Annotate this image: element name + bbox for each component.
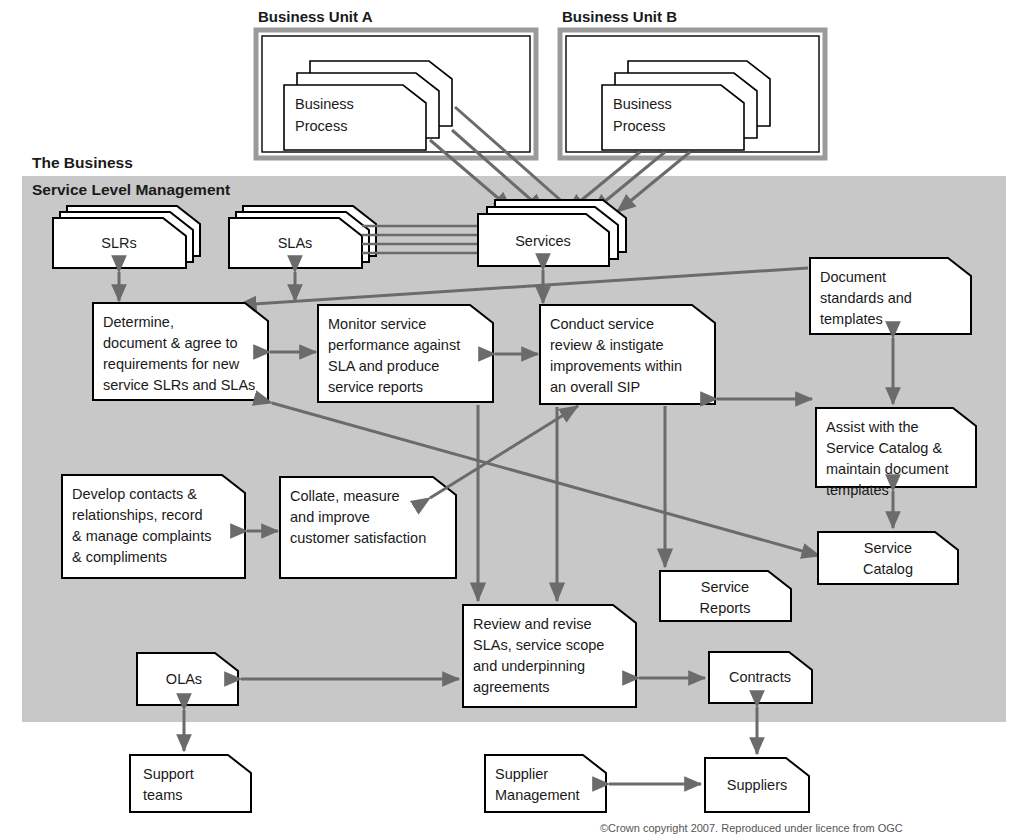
monitor-line2: performance against bbox=[328, 337, 460, 353]
assist-line2: Service Catalog & bbox=[826, 440, 942, 456]
conduct-line1: Conduct service bbox=[550, 316, 654, 332]
document-standards-line2: standards and bbox=[820, 290, 912, 306]
service-reports-line1: Service bbox=[701, 579, 749, 595]
conduct-line4: an overall SIP bbox=[550, 379, 640, 395]
conduct-line3: improvements within bbox=[550, 358, 682, 374]
support-teams-node[interactable]: Support teams bbox=[130, 755, 251, 812]
review-line3: and underpinning bbox=[473, 658, 585, 674]
monitor-line4: service reports bbox=[328, 379, 423, 395]
service-level-management-label: Service Level Management bbox=[32, 181, 230, 198]
business-process-a-line2: Process bbox=[295, 118, 347, 134]
review-line1: Review and revise bbox=[473, 616, 591, 632]
monitor-line1: Monitor service bbox=[328, 316, 426, 332]
business-unit-a-label: Business Unit A bbox=[258, 8, 373, 25]
service-catalog-node[interactable]: Service Catalog bbox=[818, 532, 958, 584]
review-line4: agreements bbox=[473, 679, 550, 695]
business-process-a-stack: Business Process bbox=[284, 61, 452, 150]
olas-label: OLAs bbox=[166, 671, 202, 687]
slrs-node[interactable]: SLRs bbox=[53, 206, 200, 268]
service-level-management-diagram: Business Unit A Business Process Busines… bbox=[0, 0, 1013, 836]
determine-line4: service SLRs and SLAs bbox=[103, 377, 255, 393]
services-label: Services bbox=[515, 233, 571, 249]
document-standards-line1: Document bbox=[820, 269, 886, 285]
service-reports-node[interactable]: Service Reports bbox=[660, 571, 791, 621]
service-catalog-line2: Catalog bbox=[863, 561, 913, 577]
slas-label: SLAs bbox=[278, 235, 313, 251]
business-unit-b-label: Business Unit B bbox=[562, 8, 677, 25]
contracts-label: Contracts bbox=[729, 669, 791, 685]
determine-line3: requirements for new bbox=[103, 356, 240, 372]
contracts-node[interactable]: Contracts bbox=[709, 652, 812, 703]
collate-line3: customer satisfaction bbox=[290, 530, 426, 546]
support-teams-line2: teams bbox=[143, 787, 183, 803]
develop-line4: & compliments bbox=[72, 549, 167, 565]
conduct-line2: review & instigate bbox=[550, 337, 664, 353]
business-process-b-line2: Process bbox=[613, 118, 665, 134]
support-teams-box bbox=[130, 755, 251, 812]
the-business-label: The Business bbox=[32, 154, 133, 171]
assist-line3: maintain document bbox=[826, 461, 949, 477]
determine-line2: document & agree to bbox=[103, 335, 238, 351]
copyright-notice: ©Crown copyright 2007. Reproduced under … bbox=[600, 822, 903, 834]
develop-contacts-node[interactable]: Develop contacts & relationships, record… bbox=[62, 475, 245, 578]
develop-line1: Develop contacts & bbox=[72, 486, 197, 502]
business-process-b-stack: Business Process bbox=[602, 61, 770, 150]
assist-service-catalog-node[interactable]: Assist with the Service Catalog & mainta… bbox=[816, 408, 976, 498]
collate-line2: and improve bbox=[290, 509, 370, 525]
develop-line3: & manage complaints bbox=[72, 528, 211, 544]
business-process-b-line1: Business bbox=[613, 96, 672, 112]
olas-node[interactable]: OLAs bbox=[137, 653, 238, 705]
service-catalog-line1: Service bbox=[864, 540, 912, 556]
collate-measure-node[interactable]: Collate, measure and improve customer sa… bbox=[280, 477, 456, 578]
conduct-service-review-node[interactable]: Conduct service review & instigate impro… bbox=[540, 305, 715, 404]
support-teams-line1: Support bbox=[143, 766, 194, 782]
determine-document-agree-node[interactable]: Determine, document & agree to requireme… bbox=[93, 303, 268, 400]
monitor-line3: SLA and produce bbox=[328, 358, 439, 374]
diagram-canvas: Business Unit A Business Process Busines… bbox=[0, 0, 1013, 836]
service-reports-line2: Reports bbox=[700, 600, 751, 616]
supplier-management-box bbox=[485, 755, 606, 812]
suppliers-node[interactable]: Suppliers bbox=[705, 758, 809, 812]
services-node[interactable]: Services bbox=[478, 200, 626, 266]
assist-line4: templates bbox=[826, 482, 889, 498]
determine-line1: Determine, bbox=[103, 314, 174, 330]
review-line2: SLAs, service scope bbox=[473, 637, 604, 653]
suppliers-label: Suppliers bbox=[727, 777, 787, 793]
document-standards-line3: templates bbox=[820, 311, 883, 327]
slrs-label: SLRs bbox=[101, 235, 136, 251]
slas-node[interactable]: SLAs bbox=[229, 206, 376, 268]
collate-line1: Collate, measure bbox=[290, 488, 400, 504]
review-revise-slas-node[interactable]: Review and revise SLAs, service scope an… bbox=[463, 605, 636, 707]
monitor-service-performance-node[interactable]: Monitor service performance against SLA … bbox=[318, 305, 493, 402]
supplier-management-line1: Supplier bbox=[495, 766, 548, 782]
business-process-a-line1: Business bbox=[295, 96, 354, 112]
supplier-management-node[interactable]: Supplier Management bbox=[485, 755, 606, 812]
assist-line1: Assist with the bbox=[826, 419, 919, 435]
supplier-management-line2: Management bbox=[495, 787, 580, 803]
develop-line2: relationships, record bbox=[72, 507, 203, 523]
document-standards-node[interactable]: Document standards and templates bbox=[810, 258, 971, 334]
